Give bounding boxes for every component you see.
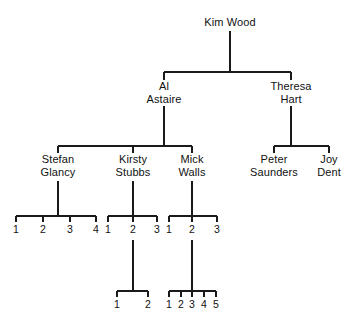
person-name-line: Stubbs — [116, 166, 151, 179]
person-name-line: Al — [147, 80, 182, 93]
person-name-line: Peter — [250, 153, 298, 166]
person-node-theresa-hart: Theresa Hart — [270, 80, 311, 105]
grandchild-number-mick-4: 4 — [201, 299, 207, 310]
person-name-line: Saunders — [250, 166, 298, 179]
person-name-line: Kim Wood — [204, 16, 255, 29]
person-name-line: Walls — [179, 166, 206, 179]
child-number-kirsty-2: 2 — [130, 224, 136, 235]
family-tree-diagram: Kim Wood Al Astaire Theresa Hart Stefan … — [0, 0, 357, 331]
person-name-line: Kirsty — [116, 153, 151, 166]
child-number-kirsty-1: 1 — [105, 224, 111, 235]
person-name-line: Mick — [179, 153, 206, 166]
person-node-kirsty-stubbs: Kirsty Stubbs — [116, 153, 151, 178]
grandchild-number-mick-3: 3 — [189, 299, 195, 310]
grandchild-number-mick-5: 5 — [213, 299, 219, 310]
child-number-mick-1: 1 — [166, 224, 172, 235]
child-number-mick-3: 3 — [214, 224, 220, 235]
person-node-joy-dent: Joy Dent — [317, 153, 341, 178]
child-number-kirsty-3: 3 — [154, 224, 160, 235]
child-number-stefan-4: 4 — [93, 224, 99, 235]
person-name-line: Theresa — [270, 80, 311, 93]
grandchild-number-mick-2: 2 — [178, 299, 184, 310]
person-node-al-astaire: Al Astaire — [147, 80, 182, 105]
person-name-line: Dent — [317, 166, 341, 179]
person-name-line: Hart — [270, 93, 311, 106]
child-number-mick-2: 2 — [189, 224, 195, 235]
child-number-stefan-3: 3 — [67, 224, 73, 235]
child-number-stefan-2: 2 — [40, 224, 46, 235]
person-node-peter-saunders: Peter Saunders — [250, 153, 298, 178]
child-number-stefan-1: 1 — [13, 224, 19, 235]
person-node-mick-walls: Mick Walls — [179, 153, 206, 178]
person-name-line: Astaire — [147, 93, 182, 106]
grandchild-number-mick-1: 1 — [166, 299, 172, 310]
person-name-line: Glancy — [41, 166, 76, 179]
person-name-line: Joy — [317, 153, 341, 166]
person-name-line: Stefan — [41, 153, 76, 166]
person-node-stefan-glancy: Stefan Glancy — [41, 153, 76, 178]
person-node-kim-wood: Kim Wood — [204, 16, 255, 29]
grandchild-number-kirsty-2: 2 — [145, 299, 151, 310]
grandchild-number-kirsty-1: 1 — [114, 299, 120, 310]
